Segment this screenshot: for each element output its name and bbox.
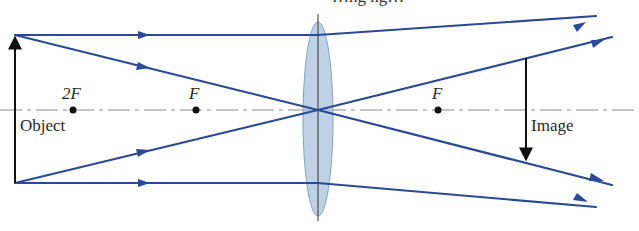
arrowhead-icon xyxy=(138,31,150,39)
label-f-right: F xyxy=(432,84,442,104)
label-image: Image xyxy=(531,116,573,136)
arrowhead-icon xyxy=(573,22,586,32)
ray-arrowheads xyxy=(136,22,604,202)
arrowhead-icon xyxy=(136,149,150,157)
arrowhead-icon xyxy=(591,40,604,48)
label-object: Object xyxy=(20,116,65,136)
ray-parallel-top xyxy=(15,16,596,35)
label-2f: 2F xyxy=(62,84,81,104)
arrowhead-icon xyxy=(589,173,604,181)
focal-point-f-left xyxy=(193,107,200,114)
arrowhead-icon xyxy=(138,179,150,187)
converging-lens xyxy=(303,14,333,221)
ray-parallel-bottom xyxy=(15,183,596,207)
arrowhead-icon xyxy=(573,193,588,202)
focal-point-f-right xyxy=(435,107,442,114)
label-f-left: F xyxy=(189,84,199,104)
focal-point-2f-left xyxy=(70,107,77,114)
